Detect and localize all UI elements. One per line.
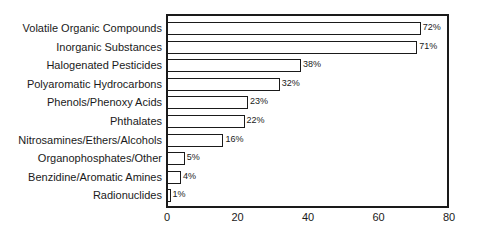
- category-label: Phenols/Phenoxy Acids: [47, 96, 162, 109]
- category-label: Nitrosamines/Ethers/Alcohols: [18, 134, 162, 147]
- value-label: 22%: [247, 114, 265, 127]
- bar-chart: Volatile Organic Compounds72%Inorganic S…: [0, 0, 478, 234]
- value-label: 72%: [423, 21, 441, 34]
- x-tick-label: 80: [443, 211, 455, 224]
- x-tick-label: 0: [164, 211, 170, 224]
- value-label: 5%: [187, 151, 200, 164]
- x-tick-label: 20: [231, 211, 243, 224]
- value-label: 4%: [183, 170, 196, 183]
- bar: [167, 189, 171, 202]
- category-label: Halogenated Pesticides: [46, 59, 162, 72]
- category-label: Radionuclides: [93, 189, 162, 202]
- bar: [167, 152, 185, 165]
- bar: [167, 59, 301, 72]
- category-label: Benzidine/Aromatic Amines: [28, 171, 162, 184]
- bar: [167, 22, 421, 35]
- value-label: 1%: [173, 188, 186, 201]
- value-label: 71%: [419, 40, 437, 53]
- value-label: 16%: [225, 133, 243, 146]
- x-tick-label: 60: [372, 211, 384, 224]
- category-label: Inorganic Substances: [56, 41, 162, 54]
- value-label: 38%: [303, 58, 321, 71]
- x-tick-label: 40: [302, 211, 314, 224]
- value-label: 32%: [282, 77, 300, 90]
- bar: [167, 115, 245, 128]
- bar: [167, 171, 181, 184]
- value-label: 23%: [250, 95, 268, 108]
- bar: [167, 134, 223, 147]
- bar: [167, 96, 248, 109]
- category-label: Polyaromatic Hydrocarbons: [27, 78, 162, 91]
- category-label: Phthalates: [110, 115, 162, 128]
- bar: [167, 78, 280, 91]
- category-label: Volatile Organic Compounds: [23, 22, 162, 35]
- bar: [167, 41, 417, 54]
- category-label: Organophosphates/Other: [38, 152, 162, 165]
